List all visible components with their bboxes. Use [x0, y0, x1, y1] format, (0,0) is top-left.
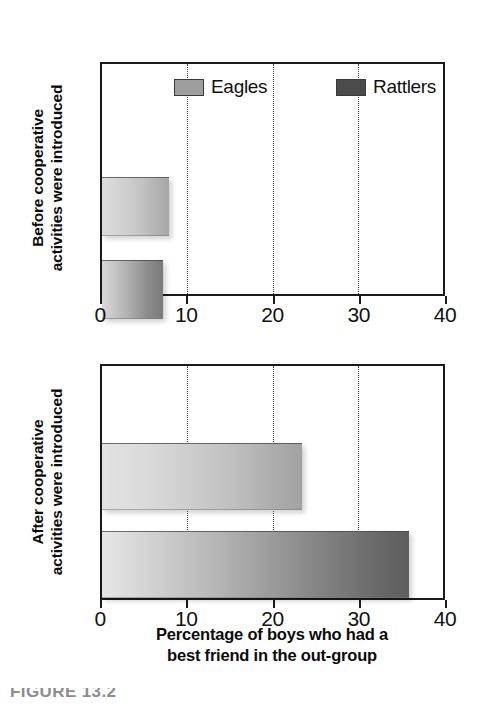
- plot-inner-before: Eagles Rattlers: [102, 64, 443, 294]
- y-axis-label-before-line2: activities were introduced: [48, 85, 67, 271]
- xticklabel-0-before: 0: [94, 303, 105, 327]
- xticklabel-10-before: 10: [175, 303, 197, 327]
- xticklabel-20-before: 20: [261, 303, 283, 327]
- gridline-30-before: [358, 64, 359, 294]
- panel-after: After cooperative activities were introd…: [0, 330, 480, 660]
- x-axis-title: Percentage of boys who had a best friend…: [72, 624, 472, 666]
- legend-swatch-rattlers-icon: [336, 79, 366, 96]
- bar-before-eagles: [102, 177, 169, 237]
- figure-caption-text: FIGURE 13.2: [10, 688, 310, 702]
- y-axis-label-after: After cooperative activities were introd…: [29, 389, 67, 575]
- y-axis-label-before-line1: Before cooperative: [29, 85, 48, 271]
- y-axis-label-after-line2: activities were introduced: [48, 389, 67, 575]
- figure-container: Before cooperative activities were intro…: [0, 0, 480, 705]
- legend-label-rattlers: Rattlers: [373, 76, 436, 98]
- bar-after-rattlers: [102, 531, 409, 598]
- xticklabel-40-before: 40: [434, 303, 456, 327]
- gridline-20-before: [273, 64, 274, 294]
- y-axis-label-wrapper-after: After cooperative activities were introd…: [0, 330, 100, 660]
- panel-before: Before cooperative activities were intro…: [0, 0, 480, 330]
- bar-after-eagles: [102, 443, 302, 510]
- gridline-10-before: [187, 64, 188, 294]
- y-axis-label-after-line1: After cooperative: [29, 389, 48, 575]
- plot-area-after: [100, 364, 445, 600]
- legend-label-eagles: Eagles: [211, 76, 267, 98]
- y-axis-label-wrapper-before: Before cooperative activities were intro…: [0, 0, 100, 330]
- x-axis-ticklabels-before: 0 10 20 30 40: [100, 303, 445, 331]
- figure-caption-clipped: FIGURE 13.2: [10, 688, 310, 705]
- legend-swatch-eagles-icon: [174, 79, 204, 96]
- x-axis-title-line1: Percentage of boys who had a: [72, 624, 472, 645]
- y-axis-label-before: Before cooperative activities were intro…: [29, 85, 67, 271]
- xticklabel-30-before: 30: [348, 303, 370, 327]
- legend-item-rattlers: Rattlers: [336, 76, 436, 98]
- plot-inner-after: [102, 366, 443, 598]
- x-axis-title-line2: best friend in the out-group: [72, 645, 472, 666]
- plot-area-before: Eagles Rattlers: [100, 62, 445, 296]
